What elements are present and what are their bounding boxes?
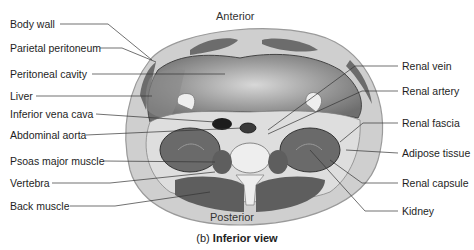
label-renal-vein: Renal vein <box>402 60 452 72</box>
vertebral-body <box>230 143 270 173</box>
label-psoas-major-muscle: Psoas major muscle <box>10 155 105 167</box>
anterior-label: Anterior <box>216 10 255 22</box>
label-back-muscle: Back muscle <box>10 200 70 212</box>
label-inferior-vena-cava: Inferior vena cava <box>10 108 93 120</box>
label-peritoneal-cavity: Peritoneal cavity <box>10 68 87 80</box>
label-body-wall: Body wall <box>10 18 55 30</box>
caption-title: Inferior view <box>213 232 278 244</box>
abdominal-cross-section-figure: Anterior Posterior Body wall Parietal pe… <box>0 0 474 250</box>
psoas-muscle-right <box>268 150 288 174</box>
label-renal-artery: Renal artery <box>402 85 459 97</box>
label-kidney: Kidney <box>402 205 434 217</box>
abdominal-aorta <box>240 123 256 133</box>
inferior-vena-cava <box>212 118 232 130</box>
label-vertebra: Vertebra <box>10 177 50 189</box>
figure-caption: (b) Inferior view <box>0 232 474 244</box>
label-adipose-tissue: Adipose tissue <box>402 147 470 159</box>
label-liver: Liver <box>10 90 33 102</box>
kidney-left <box>160 128 220 172</box>
caption-prefix: (b) <box>196 232 209 244</box>
label-parietal-peritoneum: Parietal peritoneum <box>10 42 101 54</box>
label-renal-capsule: Renal capsule <box>402 177 469 189</box>
label-abdominal-aorta: Abdominal aorta <box>10 129 86 141</box>
label-renal-fascia: Renal fascia <box>402 117 460 129</box>
posterior-label: Posterior <box>210 211 254 223</box>
